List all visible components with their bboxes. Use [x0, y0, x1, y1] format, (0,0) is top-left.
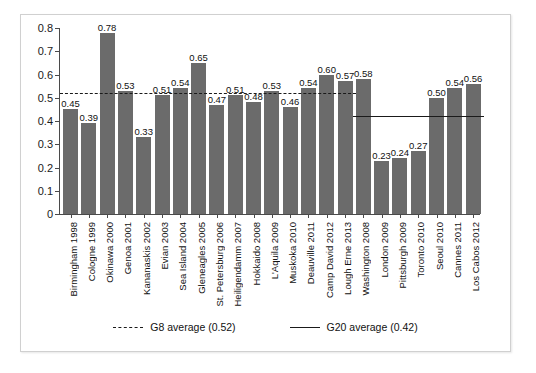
y-tick-mark	[55, 214, 59, 215]
x-tick-mark	[180, 214, 181, 218]
legend-item: G20 average (0.42)	[290, 321, 418, 333]
bar: 0.54	[173, 88, 188, 214]
y-tick-label: 0.5	[38, 92, 53, 104]
x-tick-mark	[473, 214, 474, 218]
y-tick-label: 0.6	[38, 69, 53, 81]
x-tick-mark	[125, 214, 126, 218]
bar-value-label: 0.24	[391, 148, 410, 158]
chart-figure: 0.80.70.60.50.40.30.20.10 0.450.390.780.…	[20, 14, 511, 352]
x-tick-mark	[71, 214, 72, 218]
bar: 0.53	[264, 91, 279, 214]
x-tick-label: Evian 2003	[157, 222, 172, 270]
x-tick-label: Deauville 2011	[303, 222, 318, 284]
bar-value-label: 0.53	[116, 81, 135, 91]
x-tick-mark	[308, 214, 309, 218]
x-tick-mark	[217, 214, 218, 218]
bar: 0.33	[136, 137, 151, 214]
bar-value-label: 0.39	[80, 113, 99, 123]
y-tick-mark	[55, 28, 59, 29]
y-tick-mark	[55, 98, 59, 99]
x-tick-label: Gleneagles 2005	[194, 222, 209, 294]
bar: 0.54	[301, 88, 316, 214]
bar-value-label: 0.23	[372, 151, 391, 161]
x-tick-label: Cologne 1999	[84, 222, 99, 281]
g8-average-line	[60, 93, 356, 94]
x-tick-label: Camp David 2012	[322, 222, 337, 298]
x-tick-mark	[89, 214, 90, 218]
bar: 0.27	[411, 151, 426, 214]
x-tick-label: St. Petersburg 2006	[212, 222, 227, 307]
bar-value-label: 0.54	[171, 78, 190, 88]
bar: 0.51	[228, 95, 243, 214]
x-tick-mark	[327, 214, 328, 218]
y-tick-mark	[55, 191, 59, 192]
x-tick-mark	[400, 214, 401, 218]
bar-value-label: 0.27	[409, 141, 428, 151]
x-tick-mark	[235, 214, 236, 218]
x-tick-mark	[144, 214, 145, 218]
bar: 0.54	[447, 88, 462, 214]
x-tick-label: Genoa 2001	[120, 222, 135, 274]
x-tick-mark	[455, 214, 456, 218]
bar: 0.39	[81, 123, 96, 214]
x-tick-label: Okinawa 2000	[102, 222, 117, 283]
x-tick-label: Washington 2008	[358, 222, 373, 296]
x-tick-mark	[199, 214, 200, 218]
y-tick-label: 0.8	[38, 22, 53, 34]
y-tick-label: 0.1	[38, 185, 53, 197]
y-tick-label: 0.2	[38, 162, 53, 174]
x-tick-label: Hokkaido 2008	[249, 222, 264, 285]
x-tick-label: Kananaskis 2002	[139, 222, 154, 295]
bar: 0.23	[374, 161, 389, 214]
legend-line-icon	[113, 327, 143, 328]
x-tick-label: London 2009	[377, 222, 392, 277]
bar: 0.65	[191, 63, 206, 214]
y-tick-mark	[55, 51, 59, 52]
y-tick-label: 0.4	[38, 115, 53, 127]
bar-value-label: 0.60	[317, 65, 336, 75]
x-tick-mark	[345, 214, 346, 218]
bar: 0.58	[356, 79, 371, 214]
x-tick-mark	[254, 214, 255, 218]
x-tick-label: Cannes 2011	[450, 222, 465, 278]
bar: 0.60	[319, 75, 334, 215]
x-tick-label: Birmingham 1998	[66, 222, 81, 296]
legend-line-icon	[290, 327, 320, 328]
bar: 0.56	[466, 84, 481, 214]
bar: 0.45	[63, 109, 78, 214]
y-tick-mark	[55, 144, 59, 145]
y-tick-label: 0.7	[38, 45, 53, 57]
bar-value-label: 0.57	[336, 71, 355, 81]
x-tick-mark	[107, 214, 108, 218]
bar: 0.51	[155, 95, 170, 214]
x-tick-mark	[272, 214, 273, 218]
bar-value-label: 0.33	[134, 127, 153, 137]
y-axis-line	[59, 28, 60, 214]
bar-value-label: 0.56	[464, 74, 483, 84]
x-tick-mark	[437, 214, 438, 218]
legend-item-label: G8 average (0.52)	[150, 321, 235, 333]
x-tick-label: Los Cabos 2012	[468, 222, 483, 291]
x-tick-label: L'Aquila 2009	[267, 222, 282, 279]
bar-value-label: 0.47	[208, 95, 227, 105]
bar: 0.46	[283, 107, 298, 214]
x-tick-mark	[363, 214, 364, 218]
bar-value-label: 0.50	[427, 88, 446, 98]
bar-value-label: 0.46	[281, 97, 300, 107]
chart-legend: G8 average (0.52)G20 average (0.42)	[21, 321, 510, 333]
g20-average-line	[353, 116, 484, 117]
bar-value-label: 0.54	[299, 78, 318, 88]
x-tick-label: Toronto 2010	[413, 222, 428, 277]
y-tick-mark	[55, 168, 59, 169]
y-tick-mark	[55, 75, 59, 76]
x-tick-label: Muskoka 2010	[285, 222, 300, 284]
bar: 0.47	[209, 105, 224, 214]
y-tick-mark	[55, 121, 59, 122]
y-tick-label: 0.3	[38, 138, 53, 150]
bar-value-label: 0.65	[189, 53, 208, 63]
legend-item-label: G20 average (0.42)	[327, 321, 418, 333]
x-axis-line	[59, 214, 480, 215]
bar-value-label: 0.58	[354, 69, 373, 79]
plot-area: 0.80.70.60.50.40.30.20.10 0.450.390.780.…	[59, 28, 499, 214]
bar: 0.48	[246, 102, 261, 214]
